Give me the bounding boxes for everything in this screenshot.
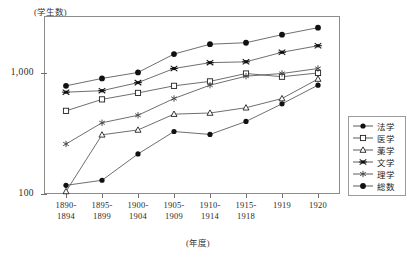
legend-item-4[interactable]: 理学 — [351, 168, 403, 180]
x-tick-label: 1919 — [273, 200, 291, 211]
x-tick-label: 1895-1899 — [92, 200, 113, 221]
x-tick-label: 1905-1909 — [164, 200, 185, 221]
data-point-open-triangle — [63, 188, 69, 193]
x-tick-label-line2: 1918 — [236, 211, 257, 222]
data-point-open-square — [135, 90, 140, 95]
legend-item-0[interactable]: 法学 — [351, 120, 403, 132]
legend-label: 医学 — [375, 132, 395, 144]
x-tick-mark — [246, 194, 247, 198]
data-point-filled-circle-large — [99, 76, 105, 82]
data-point-filled-circle — [360, 123, 365, 128]
data-point-asterisk — [99, 120, 105, 126]
data-point-star-x — [62, 90, 70, 95]
x-tick-label: 1910-1914 — [200, 200, 221, 221]
legend-marker-filled-circle-icon — [351, 120, 375, 132]
x-tick-label-line1: 1890- — [56, 200, 77, 211]
data-point-star-x — [359, 159, 367, 164]
data-point-asterisk — [171, 95, 177, 101]
x-tick-label: 1920 — [309, 200, 327, 211]
x-tick-label-line1: 1915- — [236, 200, 257, 211]
data-point-filled-circle-large — [360, 183, 366, 189]
legend-marker-open-triangle-icon — [351, 144, 375, 156]
chart-container: (学生数) 1,000100 1890-18941895-18991900-19… — [0, 0, 418, 256]
y-tick-label: 1,000 — [0, 67, 34, 77]
data-point-star-x — [98, 88, 106, 93]
x-axis-unit-caption: (年度) — [186, 236, 210, 248]
data-point-filled-circle-large — [171, 51, 177, 57]
legend-marker-filled-circle-large-icon — [351, 180, 375, 192]
x-tick-mark — [102, 194, 103, 198]
plot-series-layer — [44, 16, 340, 194]
x-tick-label: 1890-1894 — [56, 200, 77, 221]
data-point-star-x — [206, 60, 214, 65]
x-tick-mark — [138, 194, 139, 198]
data-point-open-square — [63, 108, 68, 113]
data-point-filled-circle-large — [135, 70, 141, 76]
y-tick-label: 100 — [0, 188, 34, 198]
legend-label: 総数 — [375, 180, 395, 192]
x-tick-label-line2: 1894 — [56, 211, 77, 222]
x-tick-label-line1: 1895- — [92, 200, 113, 211]
data-point-filled-circle — [207, 132, 212, 137]
data-point-filled-circle — [99, 178, 104, 183]
data-point-filled-circle-large — [207, 41, 213, 47]
x-tick-mark — [210, 194, 211, 198]
data-point-asterisk — [63, 141, 69, 147]
legend-label: 理学 — [375, 168, 395, 180]
legend-label: 法学 — [375, 120, 395, 132]
legend-item-2[interactable]: 薬学 — [351, 144, 403, 156]
data-point-star-x — [314, 43, 322, 48]
x-tick-label-line1: 1905- — [164, 200, 185, 211]
legend-marker-star-x-icon — [351, 156, 375, 168]
data-point-open-square — [360, 135, 365, 140]
x-tick-label-line2: 1914 — [200, 211, 221, 222]
data-point-star-x — [134, 80, 142, 85]
x-tick-label-line2: 1899 — [92, 211, 113, 222]
legend-item-5[interactable]: 総数 — [351, 180, 403, 192]
data-point-filled-circle-large — [63, 83, 69, 89]
data-point-open-triangle — [135, 127, 141, 132]
legend-item-3[interactable]: 文学 — [351, 156, 403, 168]
data-point-filled-circle — [63, 183, 68, 188]
legend-marker-open-square-icon — [351, 132, 375, 144]
data-point-filled-circle-large — [279, 32, 285, 38]
series-2 — [63, 76, 321, 194]
x-tick-label-line1: 1920 — [309, 200, 327, 211]
data-point-filled-circle — [315, 83, 320, 88]
data-point-filled-circle — [135, 151, 140, 156]
data-point-open-square — [171, 83, 176, 88]
legend-marker-asterisk-icon — [351, 168, 375, 180]
data-point-open-triangle — [279, 95, 285, 100]
x-tick-label: 1915-1918 — [236, 200, 257, 221]
y-tick-mark — [41, 194, 47, 195]
legend-label: 薬学 — [375, 144, 395, 156]
data-point-star-x — [278, 50, 286, 55]
x-tick-label-line1: 1919 — [273, 200, 291, 211]
x-tick-mark — [66, 194, 67, 198]
x-tick-label-line1: 1900- — [128, 200, 149, 211]
data-point-filled-circle — [171, 129, 176, 134]
x-tick-label-line1: 1910- — [200, 200, 221, 211]
data-point-star-x — [242, 59, 250, 64]
x-tick-mark — [318, 194, 319, 198]
x-tick-label: 1900-1904 — [128, 200, 149, 221]
data-point-filled-circle — [243, 119, 248, 124]
data-point-filled-circle — [279, 101, 284, 106]
series-3 — [62, 43, 322, 95]
legend-item-1[interactable]: 医学 — [351, 132, 403, 144]
x-tick-label-line2: 1904 — [128, 211, 149, 222]
legend: 法学医学薬学文学理学総数 — [348, 116, 406, 196]
x-tick-mark — [174, 194, 175, 198]
data-point-star-x — [170, 66, 178, 71]
data-point-open-triangle — [315, 76, 321, 81]
data-point-filled-circle-large — [243, 40, 249, 46]
x-tick-mark — [282, 194, 283, 198]
data-point-filled-circle-large — [315, 25, 321, 31]
x-tick-label-line2: 1909 — [164, 211, 185, 222]
data-point-open-square — [99, 97, 104, 102]
legend-label: 文学 — [375, 156, 395, 168]
